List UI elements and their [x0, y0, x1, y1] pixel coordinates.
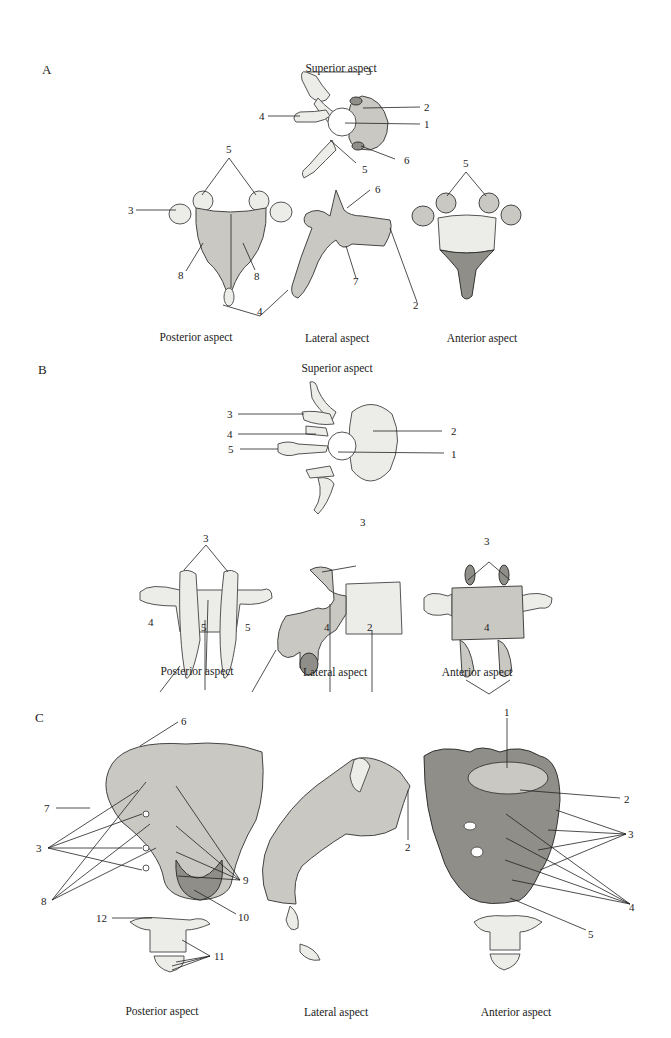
- panel-a-label: 5: [463, 158, 469, 169]
- panel-a-posterior-vertebra: [169, 191, 292, 306]
- panel-b-caption-posterior: Posterior aspect: [160, 665, 233, 677]
- panel-b-label: 2: [451, 426, 457, 437]
- panel-b-letter: B: [38, 362, 47, 378]
- panel-c-label: 8: [41, 896, 47, 907]
- panel-c-label: 11: [214, 951, 225, 962]
- panel-b-label: 5: [201, 622, 207, 633]
- panel-c-label: 10: [238, 912, 249, 923]
- panel-a-label: 7: [353, 276, 359, 287]
- panel-b-label: 3: [227, 409, 233, 420]
- panel-b-label: 4: [324, 622, 330, 633]
- panel-a-label: 5: [226, 144, 232, 155]
- panel-a-label: 2: [413, 300, 419, 311]
- panel-b-label: 2: [367, 622, 373, 633]
- panel-a-letter: A: [42, 62, 51, 78]
- panel-a-superior-vertebra: [294, 72, 388, 178]
- anatomical-illustrations: [0, 0, 671, 1038]
- panel-a-label: 3: [128, 205, 134, 216]
- panel-a-label: 6: [375, 184, 381, 195]
- panel-c-label: 3: [36, 843, 42, 854]
- panel-c-anterior-sacrum: [424, 748, 560, 970]
- panel-c-lateral-sacrum: [262, 758, 410, 961]
- panel-a-label: 8: [254, 271, 260, 282]
- panel-b-label: 5: [228, 444, 234, 455]
- panel-b-label: 3: [484, 536, 490, 547]
- panel-a-anterior-vertebra: [412, 193, 521, 299]
- panel-a-label: 4: [259, 111, 265, 122]
- panel-c-label: 1: [504, 707, 510, 718]
- panel-b-label: 3: [360, 517, 366, 528]
- panel-c-label: 2: [405, 842, 411, 853]
- panel-b-lateral-vertebra: [278, 567, 402, 675]
- panel-c-label: 5: [588, 929, 594, 940]
- panel-c-label: 2: [624, 794, 630, 805]
- panel-c-letter: C: [35, 710, 44, 726]
- panel-a-label: 4: [257, 306, 263, 317]
- panel-b-superior-vertebra: [278, 382, 398, 514]
- panel-c-label: 4: [629, 902, 635, 913]
- panel-c-label: 3: [628, 829, 634, 840]
- panel-b-caption-anterior: Anterior aspect: [442, 666, 513, 678]
- panel-c-caption-anterior: Anterior aspect: [481, 1006, 552, 1018]
- panel-b-label: 1: [451, 449, 457, 460]
- panel-c-label: 6: [181, 716, 187, 727]
- panel-a-label: 1: [424, 119, 430, 130]
- panel-b-label: 3: [203, 533, 209, 544]
- panel-a-caption-posterior: Posterior aspect: [159, 331, 232, 343]
- panel-b-superior-caption: Superior aspect: [301, 362, 372, 374]
- panel-a-caption-anterior: Anterior aspect: [447, 332, 518, 344]
- panel-c-caption-lateral: Lateral aspect: [304, 1006, 368, 1018]
- panel-b-label: 4: [484, 622, 490, 633]
- panel-b-label: 5: [245, 622, 251, 633]
- panel-b-label: 4: [148, 617, 154, 628]
- panel-c-caption-posterior: Posterior aspect: [125, 1005, 198, 1017]
- panel-a-label: 3: [366, 66, 372, 77]
- panel-b-caption-lateral: Lateral aspect: [303, 666, 367, 678]
- panel-b-label: 4: [227, 429, 233, 440]
- panel-c-label: 7: [44, 803, 50, 814]
- panel-a-label: 5: [362, 164, 368, 175]
- panel-c-label: 12: [96, 913, 107, 924]
- panel-c-posterior-sacrum: [106, 743, 263, 972]
- panel-a-label: 2: [424, 102, 430, 113]
- panel-c-label: 9: [243, 875, 249, 886]
- panel-a-caption-lateral: Lateral aspect: [305, 332, 369, 344]
- panel-a-lateral-vertebra: [292, 190, 392, 298]
- panel-a-label: 8: [178, 270, 184, 281]
- panel-a-label: 6: [404, 155, 410, 166]
